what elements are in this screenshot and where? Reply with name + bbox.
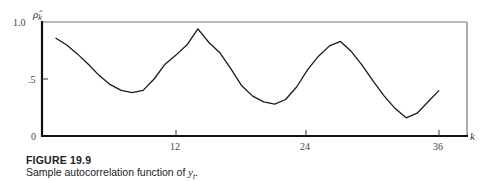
acf-line xyxy=(56,29,440,118)
x-axis-label: k xyxy=(470,130,476,142)
figure-caption: FIGURE 19.9 Sample autocorrelation funct… xyxy=(26,154,198,181)
figure-description: Sample autocorrelation function of yt. xyxy=(26,166,198,181)
figure-label: FIGURE 19.9 xyxy=(26,154,198,166)
x-tick-label-12: 12 xyxy=(170,141,180,152)
y-axis-label: ρ̂k xyxy=(32,8,43,22)
y-tick-label-mid: .5 xyxy=(28,74,36,85)
y-tick-label-zero: 0 xyxy=(31,131,36,142)
x-tick-label-24: 24 xyxy=(300,141,310,152)
y-tick-label-top: 1.0 xyxy=(13,17,26,28)
x-tick-label-36: 36 xyxy=(433,141,443,152)
